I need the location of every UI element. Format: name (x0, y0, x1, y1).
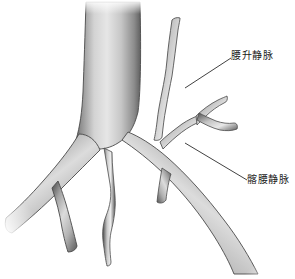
leader-line-ascending-lumbar-vein (185, 58, 231, 88)
leader-line-iliolumbar-vein (185, 143, 247, 180)
illustration-canvas: 腰升静脉 髂腰静脉 (0, 0, 295, 279)
label-ascending-lumbar-vein: 腰升静脉 (231, 50, 273, 62)
vessel-inferior-vena-cava (74, 2, 141, 149)
vessel-median-sacral-vein (103, 148, 116, 266)
vessel-ascending-lumbar-vein (154, 18, 180, 141)
vessel-iliolumbar-vein (160, 96, 237, 149)
top-fade (0, 0, 295, 14)
label-iliolumbar-vein: 髂腰静脉 (247, 174, 289, 186)
vessel-diagram (0, 0, 295, 279)
left-fade (0, 196, 74, 248)
right-fade (222, 238, 295, 279)
